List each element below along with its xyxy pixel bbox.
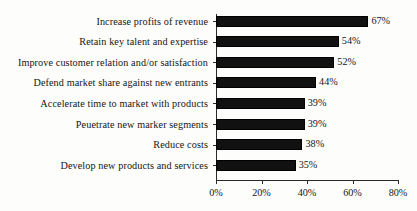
value-tick — [398, 180, 399, 184]
value-tick-label: 80% — [389, 187, 408, 199]
value-tick-label: 20% — [252, 187, 271, 199]
value-tick — [262, 180, 263, 184]
plot-area: 67%54%52%44%39%39%38%35%0%20%40%60%80% — [216, 14, 398, 181]
category-label: Accelerate time to market with products — [0, 98, 211, 109]
bar-value-label: 52% — [337, 56, 356, 68]
category-label: Improve customer relation and/or satisfa… — [0, 57, 211, 68]
bar-value-label: 39% — [308, 118, 327, 130]
category-label: Retain key talent and expertise — [0, 36, 211, 47]
bar-chart: Increase profits of revenueRetain key ta… — [0, 0, 417, 211]
bar-value-label: 54% — [342, 35, 361, 47]
bar-value-label: 38% — [305, 138, 324, 150]
bar-value-label: 39% — [308, 97, 327, 109]
category-axis-labels: Increase profits of revenueRetain key ta… — [0, 12, 211, 182]
category-tick — [213, 83, 217, 84]
category-tick — [213, 21, 217, 22]
bar-value-label: 67% — [371, 15, 390, 27]
value-tick-label: 60% — [343, 187, 362, 199]
bar-value-label: 44% — [319, 76, 338, 88]
bar-value-label: 35% — [299, 159, 318, 171]
category-tick — [213, 145, 217, 146]
category-tick — [213, 165, 217, 166]
category-label: Develop new products and services — [0, 160, 211, 171]
category-label: Increase profits of revenue — [0, 16, 211, 27]
category-tick — [213, 124, 217, 125]
bar — [216, 57, 334, 68]
category-label: Reduce costs — [0, 139, 211, 150]
bar — [216, 16, 368, 27]
bar — [216, 98, 305, 109]
value-tick-label: 0% — [209, 187, 223, 199]
value-tick-label: 40% — [298, 187, 317, 199]
bar — [216, 77, 316, 88]
bar — [216, 139, 302, 150]
value-tick — [353, 180, 354, 184]
category-tick — [213, 62, 217, 63]
category-label: Defend market share against new entrants — [0, 77, 211, 88]
category-label: Peuetrate new marker segments — [0, 119, 211, 130]
bar — [216, 160, 296, 171]
category-tick — [213, 103, 217, 104]
value-tick — [307, 180, 308, 184]
value-tick — [216, 180, 217, 184]
bar — [216, 36, 339, 47]
category-tick — [213, 42, 217, 43]
bar — [216, 119, 305, 130]
